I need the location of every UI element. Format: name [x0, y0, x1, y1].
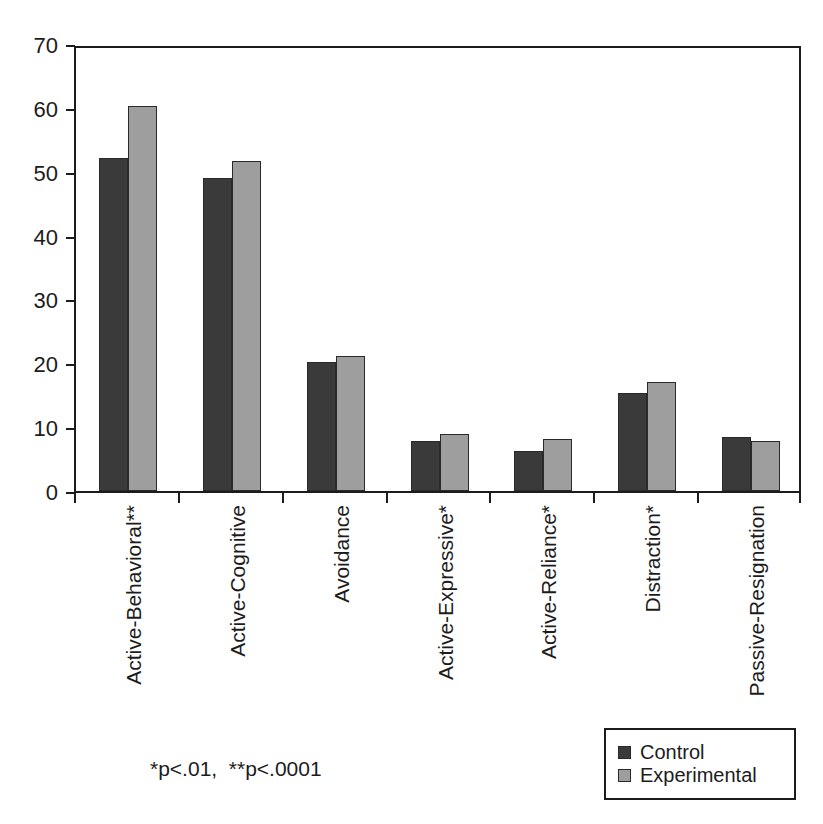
y-axis: 010203040506070 [0, 0, 66, 824]
bar-experimental-1 [232, 161, 261, 491]
significance-footnote: *p<.01, **p<.0001 [150, 758, 322, 779]
x-tick-mark [74, 493, 76, 503]
legend-swatch-icon [618, 769, 631, 782]
legend-label: Control [640, 742, 704, 762]
x-tick-mark [386, 493, 388, 503]
x-axis-labels: Active-Behavioral**Active-CognitiveAvoid… [74, 505, 801, 720]
x-axis-label-text: Distraction* [642, 505, 663, 612]
chart-legend: ControlExperimental [604, 728, 796, 800]
bar-experimental-2 [336, 356, 365, 491]
x-axis-label-text: Passive-Resignation [746, 505, 767, 696]
x-axis-label-text: Avoidance [331, 505, 352, 603]
bar-control-4 [514, 451, 543, 491]
y-tick-label: 20 [34, 354, 58, 376]
y-tick-label: 70 [34, 35, 58, 57]
x-axis-label-text: Active-Reliance* [538, 505, 559, 659]
x-tick-mark [593, 493, 595, 503]
bar-group [514, 48, 572, 491]
y-tick-label: 30 [34, 290, 58, 312]
bar-experimental-4 [543, 439, 572, 491]
plot-frame [74, 46, 801, 493]
bar-group [618, 48, 676, 491]
legend-swatch-icon [618, 746, 631, 759]
bar-experimental-5 [647, 382, 676, 491]
x-axis-label: Active-Behavioral** [97, 505, 118, 685]
legend-item: Experimental [618, 765, 782, 785]
bar-control-2 [307, 362, 336, 491]
x-axis-ticks [74, 493, 801, 505]
bar-group [411, 48, 469, 491]
bar-experimental-3 [440, 434, 469, 491]
x-tick-mark [282, 493, 284, 503]
x-axis-label: Active-Cognitive [201, 505, 222, 657]
x-axis-label: Distraction* [616, 505, 637, 612]
x-axis-label: Active-Expressive* [409, 505, 430, 680]
x-tick-mark [489, 493, 491, 503]
y-tick-label: 10 [34, 418, 58, 440]
y-tick-label: 50 [34, 163, 58, 185]
y-tick-label: 60 [34, 99, 58, 121]
bar-group [99, 48, 157, 491]
bar-control-1 [203, 178, 232, 491]
bar-control-6 [722, 437, 751, 491]
x-axis-label: Avoidance [305, 505, 326, 603]
bar-group [203, 48, 261, 491]
bar-experimental-6 [751, 441, 780, 491]
x-axis-label-text: Active-Behavioral** [123, 505, 144, 685]
x-axis-label-text: Active-Expressive* [435, 505, 456, 680]
bar-chart-figure: 010203040506070 Active-Behavioral**Activ… [0, 0, 823, 824]
bar-control-3 [411, 441, 440, 491]
x-tick-mark [178, 493, 180, 503]
bar-group [307, 48, 365, 491]
bar-group [722, 48, 780, 491]
legend-item: Control [618, 742, 782, 762]
y-tick-label: 0 [46, 482, 58, 504]
bar-experimental-0 [128, 106, 157, 491]
x-tick-mark [799, 493, 801, 503]
x-tick-mark [697, 493, 699, 503]
x-axis-label-text: Active-Cognitive [227, 505, 248, 657]
bar-control-5 [618, 393, 647, 491]
plot-area [76, 48, 799, 491]
y-tick-label: 40 [34, 227, 58, 249]
x-axis-label: Passive-Resignation [720, 505, 741, 696]
legend-label: Experimental [640, 765, 757, 785]
bar-control-0 [99, 158, 128, 491]
x-axis-label: Active-Reliance* [512, 505, 533, 659]
